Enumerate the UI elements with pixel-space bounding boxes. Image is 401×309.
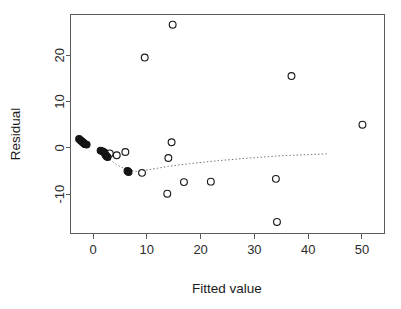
x-axis: 01020304050 [89,234,369,257]
x-tick-label: 50 [355,242,369,257]
data-point-marker [165,155,172,162]
data-point-marker [139,169,146,176]
data-point-marker [169,21,176,28]
data-point-marker [288,73,295,80]
data-point-marker [113,152,120,159]
y-axis: -1001020 [52,48,70,204]
trend-line-path [107,154,327,172]
y-tick-label: 20 [52,48,67,62]
residual-plot-screenshot: -1001020 01020304050 Fitted value Residu… [0,0,401,309]
y-tick-label: -10 [52,185,67,204]
residual-scatter-chart: -1001020 01020304050 Fitted value Residu… [0,0,401,309]
data-point-marker [164,190,171,197]
x-tick-label: 0 [89,242,96,257]
data-point-marker [125,169,132,176]
y-axis-title: Residual [8,108,23,161]
plot-frame [71,15,385,234]
data-point-marker [207,178,214,185]
y-tick-label: 0 [52,144,67,151]
x-tick-label: 40 [301,242,315,257]
x-tick-label: 20 [193,242,207,257]
x-tick-label: 30 [247,242,261,257]
data-point-marker [83,141,90,148]
data-point-marker [274,219,281,226]
data-points-group [76,21,366,225]
data-point-marker [272,175,279,182]
x-axis-title: Fitted value [192,281,262,296]
trend-line-lowess [107,154,327,172]
y-tick-label: 10 [52,94,67,108]
data-point-marker [359,121,366,128]
data-point-marker [122,149,129,156]
data-point-marker [141,54,148,61]
x-tick-label: 10 [140,242,154,257]
data-point-marker [181,179,188,186]
data-point-marker [168,139,175,146]
